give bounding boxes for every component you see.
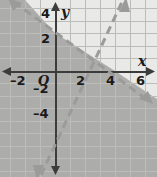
y-tick-label-2: 2 [41,32,50,45]
y-tick-label-4: 4 [41,7,50,20]
x-tick-label-neg2: –2 [10,74,26,87]
y-tick-label-neg2: –2 [33,82,49,95]
graph-canvas [0,0,157,177]
y-tick-label-neg4: –4 [33,107,49,120]
x-tick-label-2: 2 [76,74,85,87]
x-tick-label-4: 4 [106,74,115,87]
y-axis-label: y [61,5,69,19]
x-tick-label-6: 6 [136,74,145,87]
x-axis-label: x [138,54,146,68]
coordinate-plane-figure: y x O 4 2 –2 –4 –2 2 4 6 [0,0,157,177]
